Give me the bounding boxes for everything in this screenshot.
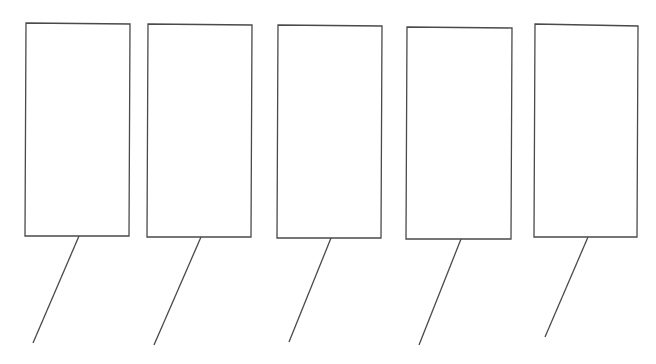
panel-2 xyxy=(147,24,252,345)
panel-stem-line xyxy=(289,238,331,342)
panel-box xyxy=(406,27,512,239)
diagram-canvas xyxy=(0,0,656,364)
panel-box xyxy=(147,24,252,237)
panel-stem-line xyxy=(545,237,588,337)
panel-stem-line xyxy=(419,239,461,345)
panel-box xyxy=(277,25,382,238)
panel-stem-line xyxy=(154,237,201,345)
panel-box xyxy=(25,23,130,236)
panel-5 xyxy=(534,24,638,337)
panel-stem-line xyxy=(33,236,79,343)
panel-3 xyxy=(277,25,382,342)
panel-box xyxy=(534,24,638,237)
panel-4 xyxy=(406,27,512,345)
panel-1 xyxy=(25,23,130,343)
